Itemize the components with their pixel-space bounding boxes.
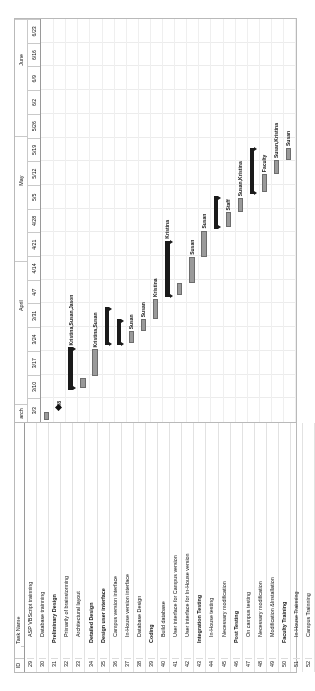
- row-id: 45: [221, 658, 228, 672]
- gantt-gridline: [41, 89, 296, 90]
- column-header-id[interactable]: ID: [15, 658, 24, 672]
- row-task-name: Campus Trainning: [305, 423, 311, 646]
- table-row[interactable]: 39Coding: [146, 423, 158, 672]
- gantt-page: ID Task Name 29ASP VBScript trainning30D…: [0, 0, 311, 691]
- table-row[interactable]: 48Necessary modification: [255, 423, 267, 672]
- task-table-body: 29ASP VBScript trainning30Database train…: [25, 423, 311, 672]
- row-task-name: Faculty Training: [281, 423, 288, 646]
- table-row[interactable]: 49Modification &Installation: [267, 423, 279, 672]
- table-row[interactable]: 45Necessary modification: [219, 423, 231, 672]
- row-task-name: Modification &Installation: [269, 423, 276, 646]
- table-row[interactable]: 40Build database: [158, 423, 170, 672]
- row-id: 31: [51, 658, 58, 672]
- gantt-rowline: [65, 19, 66, 422]
- table-row[interactable]: 51In-House Trainning: [291, 423, 303, 672]
- table-row[interactable]: 46Post Testing: [231, 423, 243, 672]
- timeline-months-row: archAprilMayJune: [15, 19, 28, 422]
- gantt-summary-bar[interactable]: [165, 241, 170, 297]
- table-row[interactable]: 43Integration Testing: [194, 423, 206, 672]
- table-row[interactable]: 34Detailed Design: [85, 423, 97, 672]
- row-task-name: Necessary modification: [257, 423, 264, 646]
- table-row[interactable]: 41User interface for Campus version: [170, 423, 182, 672]
- timeline-week-tick: 4/14: [28, 256, 40, 280]
- gantt-rowline: [53, 19, 54, 422]
- gantt-task-bar[interactable]: [141, 319, 146, 331]
- gantt-bars-area[interactable]: 3/8Kristina,Susan,JasonKristina,SusanSus…: [41, 19, 296, 422]
- row-id: 51: [293, 658, 300, 672]
- row-task-name: On campus testing: [245, 423, 252, 646]
- gantt-bar-label: Susan: [189, 240, 195, 255]
- table-row[interactable]: 44In-House testing: [206, 423, 218, 672]
- gantt-summary-bar[interactable]: [250, 148, 255, 194]
- row-id: 44: [208, 658, 215, 672]
- table-row[interactable]: 29ASP VBScript trainning: [25, 423, 37, 672]
- row-task-name: User interface for Campus version: [172, 423, 179, 646]
- gantt-task-bar[interactable]: [129, 331, 134, 343]
- row-id: 46: [233, 658, 240, 672]
- gantt-rowline: [247, 19, 248, 422]
- table-row[interactable]: 50Faculty Training: [279, 423, 291, 672]
- gantt-rowline: [162, 19, 163, 422]
- table-row[interactable]: 52Campus Trainning: [303, 423, 311, 672]
- timeline-week-tick: 5/19: [28, 138, 40, 162]
- gantt-rowline: [235, 19, 236, 422]
- row-id: 50: [281, 658, 288, 672]
- table-row[interactable]: 31Preliminary Design: [49, 423, 61, 672]
- table-row[interactable]: 47On campus testing: [243, 423, 255, 672]
- gantt-rowline: [114, 19, 115, 422]
- gantt-summary-bar[interactable]: [105, 307, 110, 345]
- gantt-rowline: [259, 19, 260, 422]
- gantt-task-bar[interactable]: [262, 174, 267, 192]
- table-row[interactable]: 32Primarily of brainstorming: [61, 423, 73, 672]
- gantt-task-bar[interactable]: [286, 148, 291, 160]
- task-table-header: ID Task Name: [15, 423, 25, 672]
- table-row[interactable]: 33Architectural layout: [73, 423, 85, 672]
- gantt-bar-label: Kristina: [152, 278, 158, 297]
- gantt-rowline: [138, 19, 139, 422]
- row-task-name: Integration Testing: [196, 423, 203, 646]
- table-row[interactable]: 30Database trainning: [37, 423, 49, 672]
- row-task-name: Preliminary Design: [51, 423, 58, 646]
- gantt-summary-bar[interactable]: [214, 196, 219, 228]
- timeline-weeks-row: 3/33/103/173/243/314/74/144/214/285/55/1…: [28, 19, 40, 422]
- gantt-task-bar[interactable]: [153, 299, 158, 319]
- timeline-week-tick: 6/9: [28, 66, 40, 90]
- timeline-week-tick: 3/17: [28, 351, 40, 375]
- gantt-gridline: [41, 397, 296, 398]
- gantt-gridline: [41, 374, 296, 375]
- gantt-task-bar[interactable]: [177, 283, 182, 295]
- gantt-task-bar[interactable]: [44, 412, 49, 420]
- gantt-task-bar[interactable]: [201, 231, 206, 257]
- gantt-bar-label: Faculty: [261, 155, 267, 173]
- column-header-task-name[interactable]: Task Name: [15, 423, 24, 646]
- row-id: 38: [136, 658, 143, 672]
- table-row[interactable]: 37In-House version interface: [122, 423, 134, 672]
- gantt-summary-bar[interactable]: [117, 319, 122, 345]
- gantt-task-bar[interactable]: [226, 212, 231, 226]
- column-header-indicator[interactable]: [21, 646, 24, 658]
- gantt-rowline: [150, 19, 151, 422]
- table-row[interactable]: 42User interface for In-House version: [182, 423, 194, 672]
- gantt-task-bar[interactable]: [238, 198, 243, 212]
- gantt-rowline: [295, 19, 296, 422]
- row-id: 33: [75, 658, 82, 672]
- gantt-rowline: [77, 19, 78, 422]
- gantt-summary-bar[interactable]: [68, 347, 73, 389]
- gantt-task-bar[interactable]: [274, 160, 279, 174]
- gantt-task-bar[interactable]: [189, 257, 194, 283]
- timeline-week-tick: 3/31: [28, 303, 40, 327]
- row-id: 34: [88, 658, 95, 672]
- timeline-month-label: May: [15, 136, 28, 225]
- gantt-rowline: [186, 19, 187, 422]
- timeline-week-tick: 6/16: [28, 43, 40, 67]
- gantt-bar-label: Susan,Kristina: [273, 123, 279, 158]
- row-task-name: ASP VBScript trainning: [27, 423, 34, 646]
- table-row[interactable]: 35Design user interface: [98, 423, 110, 672]
- gantt-bar-label: 3/8: [56, 401, 62, 408]
- gantt-task-bar[interactable]: [92, 349, 97, 375]
- gantt-gridline: [41, 137, 296, 138]
- gantt-task-bar[interactable]: [80, 378, 85, 388]
- table-row[interactable]: 36Campus version interface: [110, 423, 122, 672]
- table-row[interactable]: 38Database Design: [134, 423, 146, 672]
- row-task-name: Necessary modification: [221, 423, 228, 646]
